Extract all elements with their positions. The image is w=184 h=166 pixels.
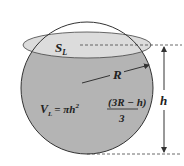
height-label: h — [160, 93, 167, 108]
radius-label: R — [112, 67, 122, 82]
sphere-diagram: SL R h VL= πh2 (3R − h) 3 — [0, 0, 184, 166]
formula-numerator: (3R − h) — [108, 96, 146, 109]
formula-denominator: 3 — [118, 112, 125, 124]
